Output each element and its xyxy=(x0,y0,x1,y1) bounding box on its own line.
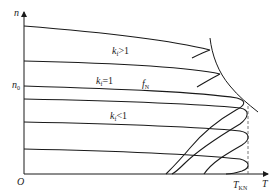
curve-kf-lt-1-c xyxy=(24,149,248,174)
diagram-svg xyxy=(0,0,279,194)
annotation-fN: fN xyxy=(142,79,149,90)
curve-kf-lt-1-b xyxy=(24,122,248,174)
tkn-label: TKN xyxy=(233,180,247,191)
origin-label: O xyxy=(17,177,24,187)
diagram-canvas: n n0 O TKN T kf>1 kf=1 fN kf<1 xyxy=(0,0,279,194)
y-axis-label: n xyxy=(14,8,19,18)
annotation-kf-lt-1: kf<1 xyxy=(110,111,127,122)
curve-kf-gt-1-low xyxy=(24,61,220,87)
n0-label: n0 xyxy=(12,80,20,91)
x-axis-label: T xyxy=(262,179,268,189)
annotation-kf-gt-1: kf>1 xyxy=(112,46,129,57)
annotation-kf-eq-1: kf=1 xyxy=(96,76,113,87)
